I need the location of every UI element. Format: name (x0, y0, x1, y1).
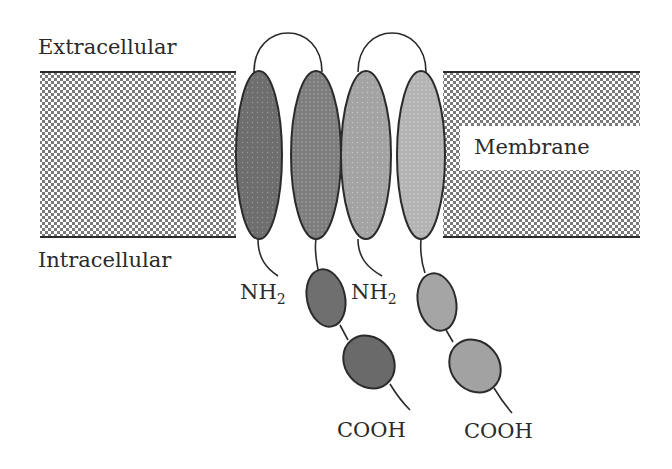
intracellular-domain-2b (439, 329, 512, 403)
membrane-left (40, 72, 236, 237)
n-terminus-tail-2 (358, 239, 382, 276)
linker-1a (315, 239, 318, 270)
n-terminus-tail-1 (258, 239, 278, 276)
helix-2 (291, 71, 341, 239)
c-terminus-label-1: COOH (337, 420, 406, 441)
n-terminus-subscript-1: 2 (277, 291, 286, 307)
c-terminus-tail-2 (494, 388, 512, 413)
helix-3 (341, 71, 391, 239)
n-terminus-text-1: NH (240, 280, 277, 304)
extracellular-loop-2 (358, 33, 426, 72)
linker-2b (446, 330, 453, 342)
intracellular-domain-1a (301, 266, 350, 331)
n-terminus-text-2: NH (351, 280, 388, 304)
intracellular-domain-1b (333, 325, 406, 399)
c-terminus-tail-1 (390, 384, 410, 410)
n-terminus-subscript-2: 2 (388, 291, 397, 307)
intracellular-domain-2a (412, 270, 461, 335)
membrane-label: Membrane (474, 137, 590, 158)
diagram-canvas (0, 0, 672, 469)
extracellular-label: Extracellular (38, 37, 177, 58)
linker-2a (421, 239, 425, 273)
linker-1b (340, 325, 348, 340)
n-terminus-label-2: NH2 (351, 282, 397, 303)
helix-1 (236, 71, 282, 239)
helix-4 (397, 71, 445, 239)
c-terminus-label-2: COOH (464, 421, 533, 442)
n-terminus-label-1: NH2 (240, 282, 286, 303)
extracellular-loop-1 (254, 33, 322, 72)
intracellular-label: Intracellular (38, 250, 171, 271)
